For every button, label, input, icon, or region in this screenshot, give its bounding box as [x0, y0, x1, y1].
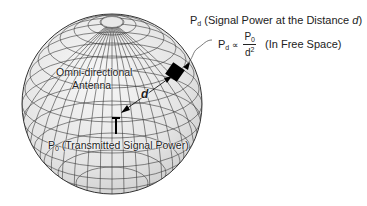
free-space-formula: Pd ∝ P0 d2 (In Free Space) [218, 32, 341, 58]
antenna-label-line1: Omni-directional [56, 67, 132, 78]
diagram-canvas [0, 0, 367, 206]
sphere [22, 14, 202, 199]
transmitter-power-label: P0 (Transmitted Signal Power) [48, 140, 189, 152]
antenna-label-line2: Antenna [72, 80, 111, 91]
receiver-power-label: Pd (Signal Power at the Distance d) [190, 15, 362, 27]
north-pole-cap [101, 17, 123, 28]
formula-fraction: P0 d2 [243, 32, 256, 58]
distance-label: d [141, 88, 148, 100]
